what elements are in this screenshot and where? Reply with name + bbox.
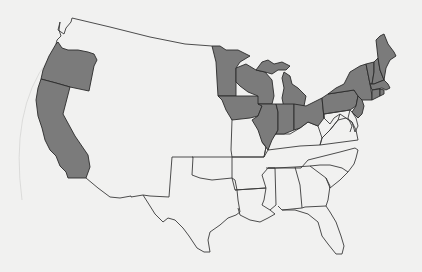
northern-border — [58, 18, 212, 46]
state-mississippi — [262, 168, 276, 210]
southwest-border — [86, 157, 212, 198]
state-iowa — [218, 96, 262, 120]
state-oklahoma-arkansas — [192, 120, 266, 190]
state-south-carolina — [310, 165, 348, 188]
state-indiana — [276, 104, 294, 134]
state-north-carolina — [301, 148, 358, 172]
state-florida — [282, 206, 344, 254]
state-rhode-island — [380, 89, 384, 96]
map-canvas — [0, 0, 422, 272]
state-texas — [143, 178, 240, 252]
state-west-virginia — [322, 114, 340, 138]
state-alabama — [275, 167, 302, 210]
state-michigan-lower — [282, 72, 306, 108]
us-map: Continental United States — [0, 0, 422, 272]
state-connecticut — [372, 89, 380, 100]
washington-coast — [56, 22, 61, 44]
state-tennessee — [264, 140, 358, 168]
state-maryland-delaware — [324, 110, 358, 132]
state-louisiana — [235, 188, 275, 222]
state-california — [36, 79, 90, 178]
